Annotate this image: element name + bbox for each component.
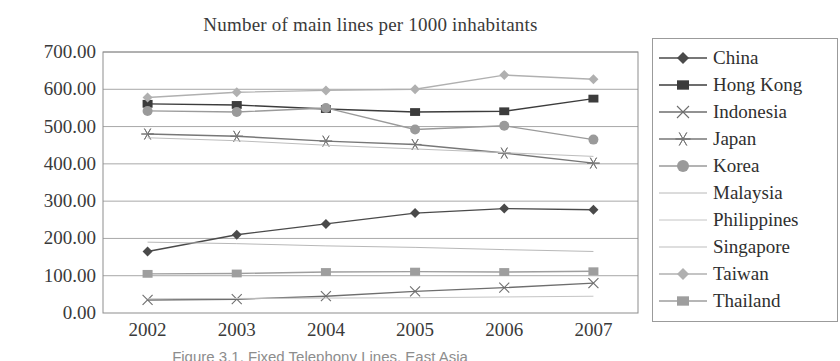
data-series-layer (141, 70, 599, 305)
y-axis-tick-label: 500.00 (8, 116, 96, 138)
legend-item-label: China (713, 48, 758, 67)
series-hong-kong (143, 95, 599, 116)
data-point-marker (588, 267, 598, 275)
x-axis-tick-label: 2003 (197, 319, 277, 341)
y-axis-tick-label: 100.00 (8, 265, 96, 287)
y-axis-tick-label: 700.00 (8, 41, 96, 63)
legend-marker (677, 160, 689, 172)
legend-marker-star-icon (657, 128, 709, 150)
data-point-marker (499, 268, 509, 276)
series-korea (143, 103, 599, 145)
legend-marker (677, 268, 689, 280)
y-axis-tick-label: 300.00 (8, 190, 96, 212)
data-point-marker (410, 84, 420, 94)
series-china (143, 204, 599, 257)
legend-item-china[interactable]: China (657, 45, 837, 70)
y-axis-tick-label: 200.00 (8, 227, 96, 249)
data-point-marker (588, 205, 598, 215)
series-line (148, 99, 594, 112)
legend-item-korea[interactable]: Korea (657, 153, 837, 178)
series-line (148, 271, 594, 274)
legend-marker-line-icon (657, 236, 709, 258)
legend-item-singapore[interactable]: Singapore (657, 234, 837, 259)
data-point-marker (231, 131, 244, 142)
series-line (148, 134, 594, 163)
series-singapore (148, 138, 594, 157)
series-line (148, 138, 594, 157)
series-line (148, 209, 594, 252)
data-point-marker (321, 103, 331, 113)
legend-item-label: Malaysia (713, 183, 783, 202)
data-point-marker (588, 135, 598, 145)
data-point-marker (410, 268, 420, 276)
legend-item-label: Hong Kong (713, 75, 802, 94)
data-point-marker (409, 139, 422, 150)
legend-marker (677, 296, 689, 305)
legend-marker-square-icon (657, 74, 709, 96)
legend-item-label: Singapore (713, 237, 790, 256)
data-point-marker (587, 158, 600, 169)
x-axis-tick-label: 2004 (286, 319, 366, 341)
legend-marker (677, 52, 689, 64)
series-line (148, 296, 594, 299)
x-axis-tick-label: 2005 (375, 319, 455, 341)
data-point-marker (321, 219, 331, 229)
y-axis-tick-label: 600.00 (8, 78, 96, 100)
data-point-marker (232, 270, 242, 278)
legend-item-thailand[interactable]: Thailand (657, 288, 837, 313)
data-point-marker (321, 268, 331, 276)
series-line (148, 75, 594, 97)
data-point-marker (232, 87, 242, 97)
gridlines (103, 52, 638, 276)
series-indonesia (143, 278, 599, 305)
x-axis-tick-label: 2002 (108, 319, 188, 341)
data-point-marker (588, 95, 598, 103)
legend-marker-diamond-icon (657, 47, 709, 69)
data-point-marker (499, 204, 509, 214)
figure-container: Number of main lines per 1000 inhabitant… (0, 0, 840, 361)
legend-marker (676, 132, 691, 145)
data-point-marker (143, 270, 153, 278)
series-taiwan (143, 70, 599, 102)
data-point-marker (410, 108, 420, 116)
data-point-marker (410, 208, 420, 218)
chart-legend[interactable]: ChinaHong KongIndonesiaJapanKoreaMalaysi… (652, 38, 838, 322)
legend-item-indonesia[interactable]: Indonesia (657, 99, 837, 124)
legend-marker-line-icon (657, 182, 709, 204)
legend-item-label: Japan (713, 129, 756, 148)
series-line (148, 108, 594, 140)
legend-marker-circle-icon (657, 155, 709, 177)
data-point-marker (143, 106, 153, 116)
legend-item-label: Indonesia (713, 102, 787, 121)
legend-marker-diamond-icon (657, 263, 709, 285)
data-point-marker (232, 107, 242, 117)
series-japan (141, 129, 599, 169)
legend-item-philippines[interactable]: Philippines (657, 207, 837, 232)
data-point-marker (143, 246, 153, 256)
figure-caption: Figure 3.1. Fixed Telephony Lines, East … (0, 348, 640, 361)
legend-item-label: Taiwan (713, 264, 769, 283)
legend-item-taiwan[interactable]: Taiwan (657, 261, 837, 286)
data-point-marker (588, 74, 598, 84)
data-point-marker (321, 85, 331, 95)
legend-item-label: Korea (713, 156, 759, 175)
legend-marker-line-icon (657, 209, 709, 231)
y-axis-tick-label: 400.00 (8, 153, 96, 175)
legend-item-label: Thailand (713, 291, 781, 310)
data-point-marker (499, 107, 509, 115)
legend-marker-square-icon (657, 290, 709, 312)
series-malaysia (148, 242, 594, 251)
legend-item-label: Philippines (713, 210, 799, 229)
legend-item-japan[interactable]: Japan (657, 126, 837, 151)
data-point-marker (499, 121, 509, 131)
data-point-marker (499, 70, 509, 80)
series-philippines (148, 296, 594, 299)
data-point-marker (410, 125, 420, 135)
legend-marker-x-icon (657, 101, 709, 123)
series-line (148, 242, 594, 251)
x-axis-tick-label: 2006 (464, 319, 544, 341)
x-axis-tick-label: 2007 (553, 319, 633, 341)
y-axis-tick-label: 0.00 (8, 302, 96, 324)
legend-item-malaysia[interactable]: Malaysia (657, 180, 837, 205)
legend-item-hong-kong[interactable]: Hong Kong (657, 72, 837, 97)
